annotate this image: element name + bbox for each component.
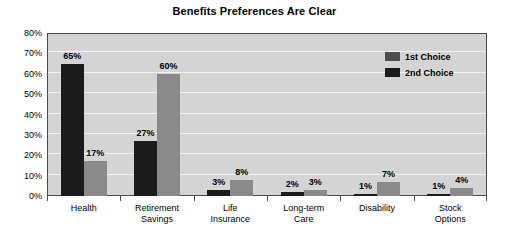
x-axis-category-label-line: Long-term [267,203,340,214]
x-axis-category-label: Long-termCare [267,203,340,225]
x-axis-category-label: Disability [340,203,413,214]
legend-swatch-icon [385,52,400,61]
gridline [48,133,486,134]
x-axis-category-label-line: Savings [120,214,193,225]
gridline [48,113,486,114]
x-axis-tick [486,196,487,201]
y-axis-tick-label: 70% [0,49,42,58]
y-axis-tick-label: 40% [0,110,42,119]
chart-title: Benefits Preferences Are Clear [0,5,509,17]
chart-legend: 1st Choice2nd Choice [385,50,454,82]
gridline [48,174,486,175]
legend-item[interactable]: 2nd Choice [385,66,454,79]
y-axis-tick-label: 50% [0,90,42,99]
chart-container: Benefits Preferences Are Clear 80%70%60%… [0,0,509,240]
legend-swatch-icon [385,68,400,77]
x-axis-category-label: RetirementSavings [120,203,193,225]
legend-item[interactable]: 1st Choice [385,50,454,63]
x-axis-category-label-line: Health [47,203,120,214]
x-axis-category-label: Health [47,203,120,214]
y-axis-tick-label: 80% [0,29,42,38]
x-axis-tick [194,196,195,201]
y-axis-tick-label: 60% [0,69,42,78]
x-axis-category-label-line: Life [194,203,267,214]
x-axis-tick [267,196,268,201]
gridline [48,153,486,154]
x-axis-category-label-line: Options [414,214,487,225]
x-axis-category-label: LifeInsurance [194,203,267,225]
x-axis: HealthRetirementSavingsLifeInsuranceLong… [47,196,487,240]
x-axis-tick [340,196,341,201]
y-axis-tick-label: 0% [0,192,42,201]
legend-label: 2nd Choice [405,68,454,78]
x-axis-tick [120,196,121,201]
y-axis: 80%70%60%50%40%30%20%10%0% [0,33,42,196]
y-axis-tick-label: 10% [0,171,42,180]
x-axis-category-label-line: Retirement [120,203,193,214]
x-axis-category-label: StockOptions [414,203,487,225]
x-axis-tick [47,196,48,201]
y-axis-tick-label: 30% [0,130,42,139]
x-axis-category-label-line: Disability [340,203,413,214]
gridline [48,92,486,93]
x-axis-category-label-line: Care [267,214,340,225]
y-axis-tick-label: 20% [0,151,42,160]
x-axis-tick [414,196,415,201]
x-axis-category-label-line: Insurance [194,214,267,225]
x-axis-category-label-line: Stock [414,203,487,214]
legend-label: 1st Choice [405,52,451,62]
